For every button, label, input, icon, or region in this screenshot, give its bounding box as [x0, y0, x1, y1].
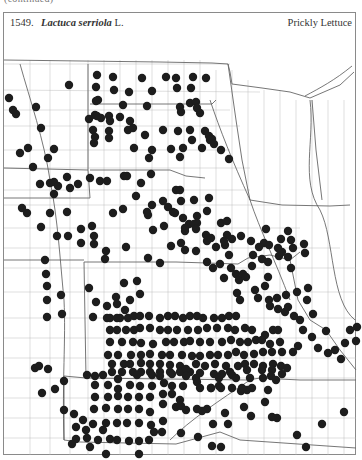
occurrence-dot — [129, 124, 137, 132]
occurrence-dot — [82, 426, 90, 434]
occurrence-dot — [99, 426, 107, 434]
occurrence-dot — [258, 366, 266, 374]
occurrence-dot — [224, 351, 232, 359]
occurrence-dot — [159, 417, 167, 425]
occurrence-dot — [290, 312, 298, 320]
occurrence-dot — [158, 351, 166, 359]
occurrence-dot — [322, 327, 330, 335]
occurrence-dot — [268, 348, 276, 356]
occurrence-dot — [135, 437, 143, 445]
occurrence-dot — [225, 251, 233, 259]
occurrence-dot — [274, 326, 282, 334]
occurrence-dot — [186, 337, 194, 345]
occurrence-dot — [250, 350, 258, 358]
occurrence-dot — [85, 115, 93, 123]
county-lines — [4, 60, 356, 455]
occurrence-dot — [114, 392, 122, 400]
occurrence-dot — [173, 84, 181, 92]
occurrence-dot — [264, 258, 272, 266]
occurrence-dot — [294, 342, 302, 350]
occurrence-dot — [167, 145, 175, 153]
occurrence-dot — [196, 338, 204, 346]
occurrence-dot — [126, 360, 134, 368]
occurrence-dot — [113, 314, 121, 322]
occurrence-dot — [43, 296, 51, 304]
occurrence-dot — [203, 258, 211, 266]
occurrence-dot — [160, 222, 168, 230]
occurrence-dot — [177, 402, 185, 410]
occurrence-dot — [303, 296, 311, 304]
occurrence-dot — [113, 436, 121, 444]
occurrence-dot — [65, 81, 73, 89]
occurrence-dot — [223, 217, 231, 225]
occurrence-dot — [192, 247, 200, 255]
occurrence-dot — [251, 286, 259, 294]
occurrence-dot — [284, 303, 292, 311]
occurrence-dot — [35, 362, 43, 370]
occurrence-dot — [113, 326, 121, 334]
occurrence-dot — [133, 277, 141, 285]
occurrence-dot — [24, 144, 32, 152]
occurrence-dot — [126, 296, 134, 304]
occurrence-dot — [148, 87, 156, 95]
occurrence-dot — [232, 374, 240, 382]
occurrence-dot — [89, 420, 97, 428]
occurrence-dot — [113, 419, 121, 427]
occurrence-dot — [159, 126, 167, 134]
occurrence-dot — [196, 352, 204, 360]
occurrence-dot — [104, 351, 112, 359]
occurrence-dot — [104, 393, 112, 401]
occurrence-dot — [89, 313, 97, 321]
occurrence-dot — [41, 256, 49, 264]
page-header: 1549. Lactuca serriola L. Prickly Lettuc… — [10, 17, 352, 31]
occurrence-dot — [29, 163, 37, 171]
occurrence-dot — [135, 450, 143, 458]
occurrence-dot — [213, 324, 221, 332]
occurrence-dot — [113, 300, 121, 308]
occurrence-dot — [64, 232, 72, 240]
occurrence-dot — [167, 242, 175, 250]
occurrence-dot — [250, 360, 258, 368]
occurrence-dot — [83, 371, 91, 379]
occurrence-dot — [91, 393, 99, 401]
occurrence-dot — [162, 338, 170, 346]
occurrence-dot — [237, 232, 245, 240]
occurrence-dot — [205, 194, 213, 202]
occurrence-dot — [287, 236, 295, 244]
occurrence-dot — [293, 431, 301, 439]
occurrence-dot — [137, 351, 145, 359]
occurrence-dot — [159, 400, 167, 408]
occurrence-dot — [119, 205, 127, 213]
occurrence-dot — [136, 382, 144, 390]
occurrence-dot — [217, 384, 225, 392]
occurrence-dot — [63, 173, 71, 181]
occurrence-dot — [43, 313, 51, 321]
occurrence-dot — [127, 351, 135, 359]
occurrence-dot — [36, 180, 44, 188]
occurrence-dot — [141, 131, 149, 139]
occurrence-dot — [211, 360, 219, 368]
occurrence-dot — [91, 381, 99, 389]
occurrence-dot — [188, 352, 196, 360]
occurrence-dot — [42, 270, 50, 278]
occurrence-dot — [102, 404, 110, 412]
occurrence-dot — [284, 227, 292, 235]
occurrence-dot — [51, 385, 59, 393]
occurrence-dot — [124, 405, 132, 413]
occurrence-dot — [190, 196, 198, 204]
occurrence-dot — [228, 235, 236, 243]
occurrence-dot — [172, 74, 180, 82]
occurrence-dot — [144, 254, 152, 262]
occurrence-dot — [324, 349, 332, 357]
occurrence-dot — [146, 324, 154, 332]
occurrence-dot — [135, 419, 143, 427]
occurrence-dot — [123, 419, 131, 427]
occurrence-dot — [273, 294, 281, 302]
occurrence-dot — [146, 408, 154, 416]
occurrence-dot — [148, 146, 156, 154]
occurrence-dot — [289, 244, 297, 252]
occurrence-dot — [168, 390, 176, 398]
occurrence-dot — [60, 406, 68, 414]
occurrence-dot — [210, 314, 218, 322]
occurrence-dot — [220, 237, 228, 245]
